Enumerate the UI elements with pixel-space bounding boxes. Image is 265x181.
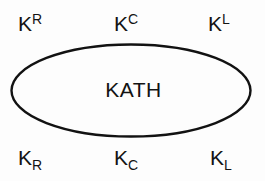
label-k-superscript-r: KR xyxy=(18,13,42,34)
ellipse-center-label: KATH xyxy=(0,78,265,102)
label-k-subscript-c-sub: C xyxy=(128,157,138,173)
kath-ellipse-diagram: KATH KR KC KL KR KC KL xyxy=(0,0,265,181)
label-k-subscript-l: KL xyxy=(210,147,232,168)
label-k-superscript-r-base: K xyxy=(18,12,32,35)
label-k-subscript-r-sub: R xyxy=(32,157,42,173)
label-k-subscript-r: KR xyxy=(18,147,42,168)
label-k-superscript-r-sup: R xyxy=(32,11,42,27)
label-k-superscript-l-sup: L xyxy=(222,11,230,27)
label-k-subscript-c: KC xyxy=(114,147,138,168)
label-k-superscript-c: KC xyxy=(114,13,138,34)
label-k-subscript-l-base: K xyxy=(210,146,224,169)
label-k-subscript-l-sub: L xyxy=(224,157,232,173)
label-k-superscript-c-sup: C xyxy=(128,11,138,27)
label-k-subscript-c-base: K xyxy=(114,146,128,169)
label-k-subscript-r-base: K xyxy=(18,146,32,169)
label-k-superscript-l: KL xyxy=(208,13,230,34)
label-k-superscript-c-base: K xyxy=(114,12,128,35)
label-k-superscript-l-base: K xyxy=(208,12,222,35)
